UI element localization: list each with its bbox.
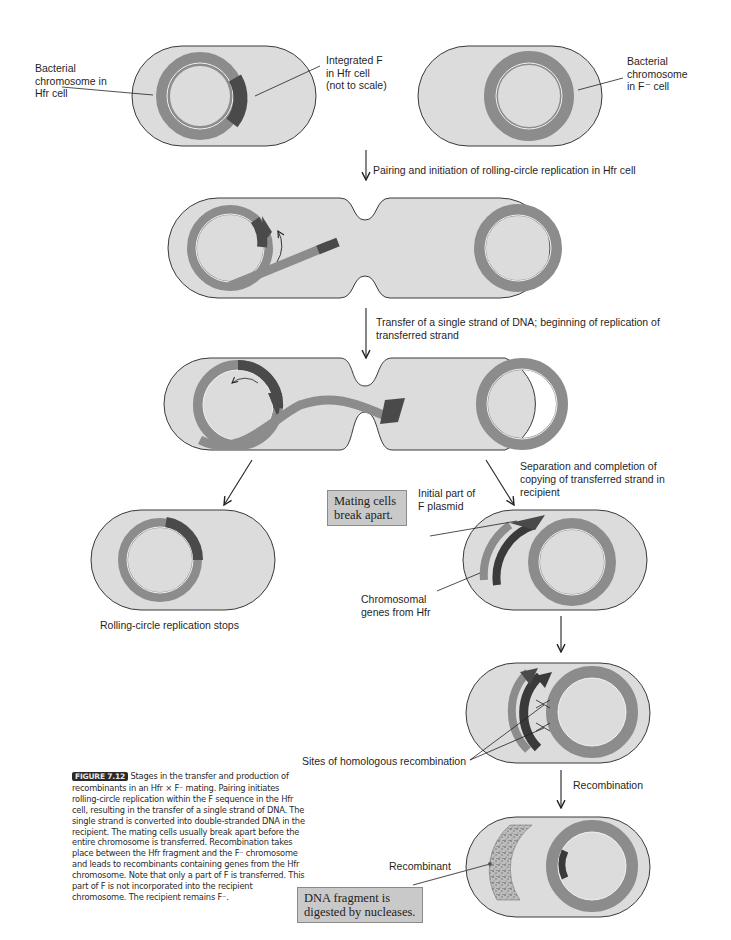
step-line: recipient (520, 486, 665, 499)
paired-cells-row3 (164, 358, 562, 450)
figure-tag: FIGURE 7.12 (72, 772, 128, 781)
recombinant-cell (466, 817, 650, 917)
label-initial-f: Initial part of F plasmid (418, 487, 475, 512)
step-line: Transfer of a single strand of DNA; begi… (376, 316, 660, 329)
recipient-cell-recomb (466, 663, 650, 763)
label-line: in F⁻ cell (627, 80, 688, 93)
step-line: Separation and completion of (520, 460, 665, 473)
label-line: Initial part of (418, 487, 475, 500)
arrow-to-stops (224, 460, 252, 505)
arrow-to-separation (486, 460, 514, 505)
step-line: copying of transferred strand in (520, 473, 665, 486)
label-chromosomal-genes: Chromosomal genes from Hfr (361, 593, 430, 618)
label-line: Bacterial (627, 55, 688, 68)
caption-text: Stages in the transfer and production of… (72, 771, 305, 902)
box-line: DNA fragment is (304, 891, 416, 905)
box-line: break apart. (334, 508, 400, 522)
box-digested: DNA fragment is digested by nucleases. (297, 887, 423, 923)
label-sites-recombination: Sites of homologous recombination (302, 755, 466, 768)
recipient-cell-after (463, 510, 647, 610)
step-line: transferred strand (376, 329, 660, 342)
fminus-cell (418, 46, 602, 146)
step-separation: Separation and completion of copying of … (520, 460, 665, 499)
label-recombinant: Recombinant (389, 860, 451, 873)
label-line: Integrated F (326, 54, 387, 67)
label-line: Hfr cell (35, 87, 107, 100)
label-line: Chromosomal (361, 593, 430, 606)
label-line: Bacterial (35, 62, 107, 75)
label-hfr-chromosome: Bacterial chromosome in Hfr cell (35, 62, 107, 100)
box-line: digested by nucleases. (304, 905, 416, 919)
label-line: genes from Hfr (361, 606, 430, 619)
box-line: Mating cells (334, 494, 400, 508)
label-line: chromosome (627, 68, 688, 81)
paired-cells-row2 (168, 198, 556, 298)
label-line: in Hfr cell (326, 67, 387, 80)
label-line: (not to scale) (326, 79, 387, 92)
step-recombination: Recombination (573, 779, 643, 792)
label-line: F plasmid (418, 500, 475, 513)
box-mating-cells: Mating cells break apart. (327, 490, 407, 526)
label-fminus-chromosome: Bacterial chromosome in F⁻ cell (627, 55, 688, 93)
step-transfer: Transfer of a single strand of DNA; begi… (376, 316, 660, 342)
label-rolling-stops: Rolling-circle replication stops (100, 619, 239, 632)
label-line: chromosome in (35, 75, 107, 88)
step-pairing: Pairing and initiation of rolling-circle… (373, 164, 636, 177)
label-integrated-f: Integrated F in Hfr cell (not to scale) (326, 54, 387, 92)
hfr-cell (132, 46, 316, 146)
hfr-cell-after (91, 510, 275, 610)
figure-caption: FIGURE 7.12 Stages in the transfer and p… (72, 771, 307, 903)
